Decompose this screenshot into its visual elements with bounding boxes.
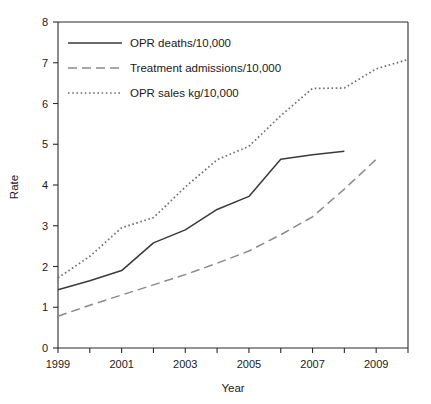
- x-axis-ticks: 199920012003200520072009: [46, 348, 408, 370]
- legend-label-2: OPR sales kg/10,000: [130, 87, 239, 99]
- x-tick-label: 2001: [109, 358, 133, 370]
- y-axis-ticks: 012345678: [42, 16, 58, 354]
- y-tick-label: 2: [42, 261, 48, 273]
- y-tick-label: 8: [42, 16, 48, 28]
- y-tick-label: 1: [42, 301, 48, 313]
- y-tick-label: 3: [42, 220, 48, 232]
- x-axis-title: Year: [221, 382, 244, 394]
- chart-legend: OPR deaths/10,000Treatment admissions/10…: [68, 37, 281, 99]
- y-axis-title: Rate: [8, 175, 20, 199]
- chart-figure: 012345678 199920012003200520072009 Year …: [0, 0, 431, 404]
- y-tick-label: 0: [42, 342, 48, 354]
- y-tick-label: 5: [42, 138, 48, 150]
- series-line-1: [58, 159, 376, 316]
- series-line-0: [58, 151, 344, 290]
- y-tick-label: 7: [42, 57, 48, 69]
- x-tick-label: 2005: [237, 358, 261, 370]
- y-tick-label: 4: [42, 179, 48, 191]
- x-tick-label: 2007: [300, 358, 324, 370]
- x-tick-label: 2009: [364, 358, 388, 370]
- x-tick-label: 2003: [173, 358, 197, 370]
- y-tick-label: 6: [42, 98, 48, 110]
- x-tick-label: 1999: [46, 358, 70, 370]
- line-chart: 012345678 199920012003200520072009 Year …: [0, 0, 431, 404]
- legend-label-0: OPR deaths/10,000: [130, 37, 231, 49]
- legend-label-1: Treatment admissions/10,000: [130, 62, 281, 74]
